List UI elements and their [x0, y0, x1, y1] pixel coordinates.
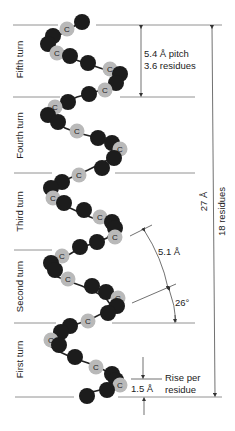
turn-label-third: Third turn — [14, 185, 25, 239]
rise-line2: residue — [165, 384, 200, 396]
svg-text:C: C — [50, 194, 56, 203]
total-residues-label: 18 residues — [216, 184, 227, 240]
turn-label-fifth: Fifth turn — [14, 35, 25, 85]
svg-text:C: C — [102, 86, 108, 95]
helix-atoms: C C C C C C C C C C C C — [40, 14, 128, 404]
svg-text:C: C — [64, 25, 70, 34]
pitch-residues: 3.6 residues — [144, 60, 196, 72]
distance-label: 5.1 Å — [158, 246, 180, 258]
turn-label-first: First turn — [14, 335, 25, 385]
svg-text:C: C — [117, 381, 123, 390]
distance-arc — [130, 225, 176, 322]
svg-text:C: C — [112, 233, 118, 242]
svg-text:C: C — [97, 213, 103, 222]
svg-text:C: C — [54, 49, 60, 58]
rise-per-residue-label: Rise per residue — [165, 372, 200, 396]
rise-value-label: 1.5 Å — [131, 383, 153, 395]
svg-text:C: C — [76, 171, 82, 180]
turn-label-fourth: Fourth turn — [14, 105, 25, 167]
svg-text:C: C — [93, 363, 99, 372]
total-length-label: 27 Å — [198, 187, 209, 217]
svg-text:C: C — [59, 252, 65, 261]
angle-label: 26° — [175, 297, 189, 309]
rise-line1: Rise per — [165, 372, 200, 384]
svg-text:C: C — [85, 317, 91, 326]
pitch-value: 5.4 Å pitch — [144, 48, 196, 60]
svg-text:C: C — [74, 127, 80, 136]
pitch-label: 5.4 Å pitch 3.6 residues — [144, 48, 196, 72]
turn-label-second: Second turn — [14, 254, 25, 320]
svg-text:C: C — [65, 275, 71, 284]
